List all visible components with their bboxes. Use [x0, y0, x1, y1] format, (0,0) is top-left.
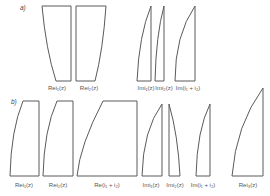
shape-re-i2-b: [43, 101, 73, 176]
shape-re-i3-b: [232, 88, 263, 176]
label-im-sum-a: Im(i₁ + i₂): [176, 85, 201, 92]
label-re-i3-b: Rei₃(z): [239, 182, 257, 189]
shape-re-i1-b: [10, 101, 39, 176]
shape-im-i2-b: [169, 104, 180, 176]
shape-re-i2-a: [76, 6, 106, 81]
label-im-i2-a: Imi₂(z): [155, 85, 172, 92]
label-im-i1-a: Imi₁(z): [137, 85, 154, 92]
shape-im-i1-b: [142, 104, 162, 176]
shape-im-sum-b: [196, 104, 210, 176]
label-im-sum-b: Im(i₁ + i₂): [191, 182, 216, 189]
label-re-i2-b: Rei₂(z): [49, 182, 67, 189]
shape-im-sum-a: [175, 6, 195, 81]
label-re-i1-a: Rei₁(z): [48, 85, 66, 92]
label-im-i2-b: Imi₂(z): [166, 182, 183, 189]
shape-im-i1-a: [137, 6, 151, 81]
label-re-i2-a: Rei₂(z): [80, 85, 98, 92]
shape-re-sum-b: [77, 101, 137, 176]
label-im-i1-b: Imi₁(z): [142, 182, 159, 189]
label-re-sum-b: Re(i₁ + i₂): [94, 182, 120, 189]
shape-re-i1-a: [42, 6, 71, 81]
label-re-i1-b: Rei₁(z): [15, 182, 33, 189]
shapes-canvas: [0, 0, 270, 196]
shape-im-i2-a: [155, 6, 164, 81]
